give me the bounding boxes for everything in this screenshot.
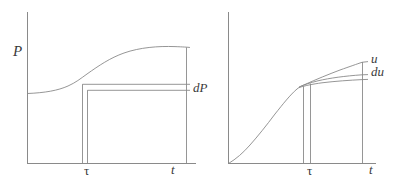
left-tau-label: τ: [84, 164, 89, 177]
right-du-label: du: [371, 65, 384, 78]
right-curve-u: [229, 62, 363, 163]
right-tick-u: [362, 62, 368, 63]
right-x-axis-label: t: [369, 163, 373, 176]
left-panel: [27, 12, 196, 164]
left-y-axis-label: P: [13, 44, 22, 59]
left-curve-P: [28, 46, 191, 93]
right-panel: [228, 12, 376, 164]
right-tau-label: τ: [307, 164, 312, 177]
left-dp-label: dP: [193, 81, 207, 94]
left-x-axis-label: t: [171, 163, 175, 176]
figure-container: P τ t dP τ t u du: [0, 0, 407, 187]
